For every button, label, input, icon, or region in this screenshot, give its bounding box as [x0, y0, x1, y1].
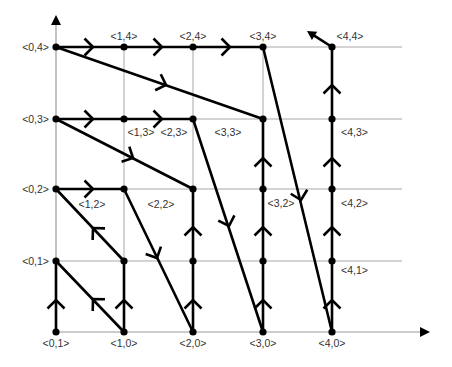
edge — [193, 119, 263, 332]
graph-node — [328, 115, 335, 122]
node-label: <4,0> — [319, 337, 346, 349]
axes — [51, 15, 430, 337]
graph-node — [52, 328, 59, 335]
node-label: <3,4> — [250, 30, 277, 42]
edge — [56, 47, 263, 119]
graph-node — [120, 185, 127, 192]
graph-node — [52, 43, 59, 50]
node-label: <2,0> — [180, 337, 207, 349]
graph-node — [189, 115, 196, 122]
graph-node — [259, 115, 266, 122]
edge — [307, 31, 332, 47]
graph-node — [120, 43, 127, 50]
node-label: <4,2> — [341, 197, 368, 209]
node-label: <0,2> — [22, 183, 49, 195]
node-label: <3,0> — [250, 337, 277, 349]
edge — [56, 181, 124, 198]
graph-node — [52, 185, 59, 192]
graph-node — [328, 43, 335, 50]
edge — [255, 119, 272, 332]
edge — [56, 261, 124, 332]
node-label: <1,0> — [111, 337, 138, 349]
graph-node — [52, 257, 59, 264]
edges — [48, 31, 341, 332]
y-axis-arrow-icon — [51, 15, 61, 25]
node-label: <1,3> — [128, 126, 155, 138]
graph-node — [52, 115, 59, 122]
graph-node — [328, 328, 335, 335]
graph-node — [259, 185, 266, 192]
graph-node — [189, 185, 196, 192]
node-label: <0,1> — [22, 255, 49, 267]
graph-node — [189, 257, 196, 264]
graph-node — [259, 328, 266, 335]
node-label: <1,4> — [111, 30, 138, 42]
node-label: <2,3> — [161, 126, 188, 138]
graph-node — [120, 328, 127, 335]
x-axis-arrow-icon — [420, 327, 430, 337]
graph-node — [189, 328, 196, 335]
node-label: <0,4> — [22, 41, 49, 53]
node-label: <2,4> — [180, 30, 207, 42]
graph-node — [120, 257, 127, 264]
edge — [116, 261, 133, 332]
edge — [56, 39, 263, 56]
graph-node — [189, 43, 196, 50]
graph-node — [120, 115, 127, 122]
node-label: <4,1> — [341, 264, 368, 276]
node-label: <0,1> — [43, 337, 70, 349]
state-graph-diagram: <0,1><1,0><2,0><3,0><4,0><0,1><4,1><0,2>… — [0, 0, 452, 367]
node-label: <3,2> — [268, 197, 295, 209]
edge — [48, 261, 65, 332]
graph-node — [259, 43, 266, 50]
node-label: <3,3> — [215, 126, 242, 138]
graph-node — [259, 257, 266, 264]
node-label: <4,4> — [337, 30, 364, 42]
graph-node — [328, 257, 335, 264]
node-label: <1,2> — [79, 198, 106, 210]
graph-node — [328, 185, 335, 192]
node-label: <0,3> — [22, 113, 49, 125]
node-label: <2,2> — [148, 198, 175, 210]
node-label: <4,3> — [341, 126, 368, 138]
